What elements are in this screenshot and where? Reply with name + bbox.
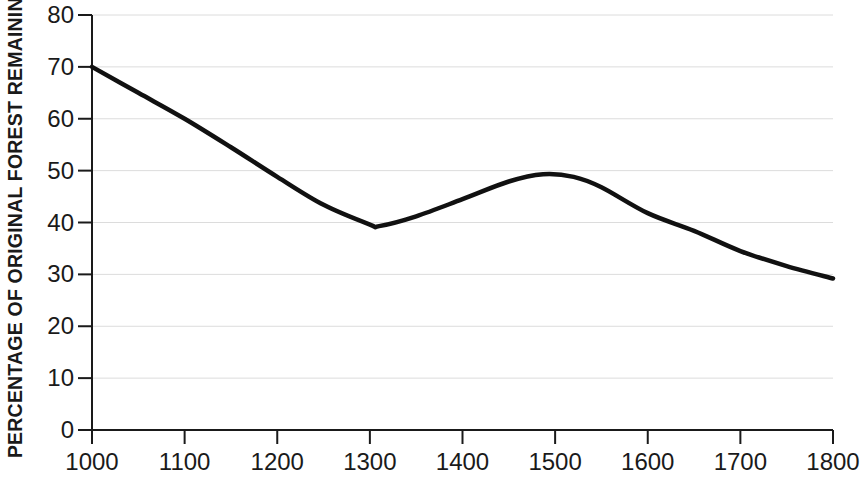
x-tick-label: 1100 bbox=[140, 450, 230, 474]
y-tick-label: 30 bbox=[14, 262, 74, 286]
y-tick-label: 20 bbox=[14, 314, 74, 338]
y-tick-label: 10 bbox=[14, 366, 74, 390]
x-tick-label: 1300 bbox=[325, 450, 415, 474]
y-tick-label: 70 bbox=[14, 55, 74, 79]
x-tick-label: 1800 bbox=[788, 450, 864, 474]
x-tick-label: 1400 bbox=[418, 450, 508, 474]
y-tick-label: 40 bbox=[14, 211, 74, 235]
x-tick-label: 1500 bbox=[510, 450, 600, 474]
x-tick-label: 1600 bbox=[603, 450, 693, 474]
gridlines-group bbox=[92, 15, 833, 378]
x-tick-marks-group bbox=[92, 430, 833, 444]
y-tick-label: 60 bbox=[14, 107, 74, 131]
x-tick-label: 1000 bbox=[47, 450, 137, 474]
y-tick-marks-group bbox=[78, 15, 92, 430]
data-series-line bbox=[92, 67, 833, 279]
x-tick-label: 1700 bbox=[695, 450, 785, 474]
y-tick-label: 0 bbox=[14, 418, 74, 442]
y-tick-label: 50 bbox=[14, 159, 74, 183]
y-tick-label: 80 bbox=[14, 3, 74, 27]
x-tick-label: 1200 bbox=[232, 450, 322, 474]
